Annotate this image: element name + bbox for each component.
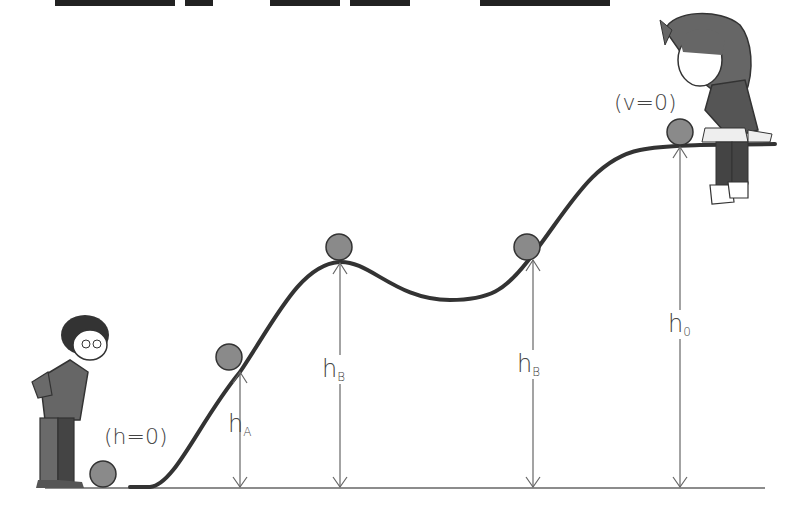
- h-a-label: hA: [228, 410, 251, 439]
- h-b-left-label: hB: [322, 355, 345, 384]
- h-b-right-label: hB: [517, 350, 540, 379]
- energy-conservation-diagram: (h=0) (v=0) hA hB hB h0: [0, 0, 795, 510]
- h-0-label: h0: [668, 310, 691, 339]
- ball-b-right: [514, 234, 540, 260]
- ball-top: [667, 119, 693, 145]
- end-condition-label: (v=0): [614, 90, 677, 115]
- cropped-heading-text: [55, 0, 610, 6]
- ball-a: [216, 344, 242, 370]
- ball-ground: [90, 461, 116, 487]
- girl-character: [660, 14, 772, 204]
- ball-b-left: [326, 234, 352, 260]
- start-condition-label: (h=0): [104, 424, 168, 449]
